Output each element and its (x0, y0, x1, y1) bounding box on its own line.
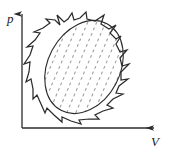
ellipse-interior (10, 7, 174, 140)
pv-diagram-canvas: p V (0, 0, 186, 152)
y-axis-label: p (6, 11, 14, 26)
pv-diagram-figure: p V (0, 0, 186, 152)
x-axis-label: V (151, 134, 161, 149)
